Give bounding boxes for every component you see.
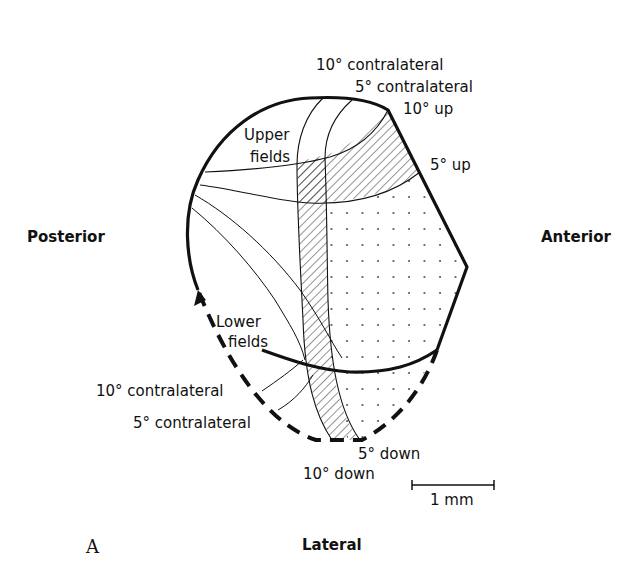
upper-fields-label-line2: fields <box>250 150 290 165</box>
down-10-label: 10° down <box>303 467 375 482</box>
up-10-label: 10° up <box>403 102 453 117</box>
upper-10-contralateral-label: 10° contralateral <box>316 58 444 73</box>
down-5-label: 5° down <box>358 447 420 462</box>
upper-5-contralateral-label: 5° contralateral <box>355 80 473 95</box>
lower-5-contralateral-label: 5° contralateral <box>133 416 251 431</box>
up-5-label: 5° up <box>430 158 471 173</box>
lower-5-contralateral-leader <box>278 375 313 410</box>
scale-bar-label: 1 mm <box>430 493 474 508</box>
lower-fields-label-line2: fields <box>228 335 268 350</box>
panel-label: A <box>86 538 99 556</box>
lower-10-contralateral-leader <box>262 360 303 391</box>
dotted-region <box>327 172 467 440</box>
lower-fields-label-line1: Lower <box>216 315 261 330</box>
diagram-canvas <box>0 0 635 573</box>
lower-10-contralateral-label: 10° contralateral <box>96 384 224 399</box>
lateral-label: Lateral <box>302 538 362 553</box>
scale-bar <box>412 480 494 490</box>
anterior-label: Anterior <box>541 230 611 245</box>
upper-fields-label-line1: Upper <box>244 128 289 143</box>
posterior-label: Posterior <box>27 230 105 245</box>
